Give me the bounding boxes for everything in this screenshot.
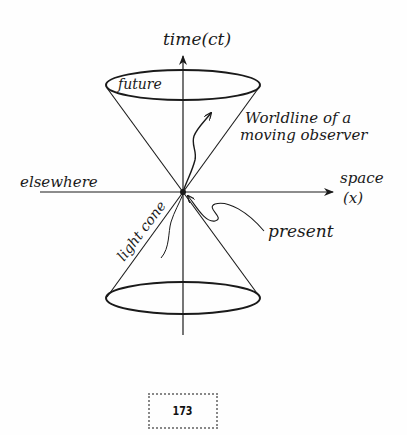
light-cone-diagram: time(ct) future Worldline of a moving ob… <box>0 0 407 435</box>
elsewhere-label: elsewhere <box>20 173 98 191</box>
space-axis-label: space <box>340 169 384 187</box>
worldline-label-line2: moving observer <box>240 126 368 144</box>
page-number: 173 <box>173 404 193 418</box>
present-leader-curve <box>188 196 264 231</box>
light-cone-leader-curve <box>161 194 183 258</box>
page-number-box: 173 <box>148 393 218 429</box>
worldline-curve <box>183 113 211 192</box>
light-cone-page: time(ct) future Worldline of a moving ob… <box>0 0 407 435</box>
future-label: future <box>117 76 162 92</box>
time-axis-label: time(ct) <box>163 29 231 49</box>
space-axis-sublabel: (x) <box>343 189 363 207</box>
worldline-label-line1: Worldline of a <box>245 109 351 127</box>
light-cone-label: light cone <box>114 198 169 264</box>
present-label: present <box>268 221 334 241</box>
